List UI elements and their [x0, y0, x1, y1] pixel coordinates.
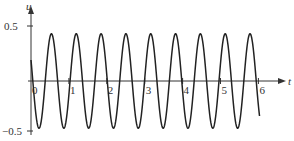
x-tick-label-1: 1 — [70, 84, 76, 96]
chart: 0.5 −0.5 u t 0123456 — [0, 0, 294, 141]
y-tick-label-neg-0.5: −0.5 — [2, 125, 22, 137]
x-tick-label-6: 6 — [259, 84, 265, 96]
x-tick-label-4: 4 — [184, 84, 190, 96]
x-tick-label-3: 3 — [146, 84, 152, 96]
x-tick-label-5: 5 — [222, 84, 228, 96]
y-tick-label-0.5: 0.5 — [4, 20, 18, 32]
y-axis-label: u — [26, 0, 32, 12]
t-axis-arrow-icon — [278, 78, 286, 84]
t-axis-label: t — [288, 75, 292, 87]
